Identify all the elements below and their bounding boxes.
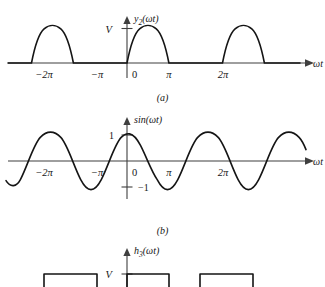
x-tick-label-zero-a: 0: [132, 69, 137, 80]
y-tick-label-V-a: V: [106, 24, 114, 35]
caption-a: (a): [0, 92, 325, 103]
chart-panel-b: 1 −1 sin(ωt) −2π −π 0 π 2π ωt: [0, 105, 325, 215]
x-tick-label-2pi-b: 2π: [218, 167, 229, 178]
y-tick-label-negone-b: −1: [138, 182, 149, 193]
x-axis-name-b: ωt: [313, 156, 323, 167]
x-tick-label-pi-a: π: [166, 69, 172, 80]
y-tick-label-V-c: V: [106, 269, 114, 280]
waveform-curve-c-2: [127, 274, 169, 287]
chart-panel-a: V y2(ωt) −2π −π 0 π 2π ωt: [0, 0, 325, 92]
x-tick-label-neg2pi-b: −2π: [35, 167, 53, 178]
chart-panel-c: V h3(ωt): [0, 243, 325, 287]
chart-a-svg: V y2(ωt) −2π −π 0 π 2π ωt: [0, 0, 325, 92]
waveform-curve-c-3: [200, 274, 253, 287]
y-axis-arrow-b: [123, 117, 130, 125]
x-tick-label-negpi-b: −π: [91, 167, 104, 178]
x-tick-label-zero-b: 0: [132, 167, 137, 178]
y-tick-label-one-b: 1: [109, 130, 114, 141]
figure-page: V y2(ωt) −2π −π 0 π 2π ωt (a): [0, 0, 325, 287]
caption-b: (b): [0, 225, 325, 236]
x-tick-label-pi-b: π: [166, 167, 172, 178]
chart-c-svg: V h3(ωt): [0, 243, 325, 287]
x-axis-name-a: ωt: [313, 58, 323, 69]
y-axis-arrow-c: [123, 248, 130, 256]
x-tick-label-2pi-a: 2π: [218, 69, 229, 80]
y-axis-name-b: sin(ωt): [134, 114, 163, 126]
waveform-curve-c: [44, 274, 97, 287]
y-axis-arrow-a: [123, 16, 130, 24]
chart-b-svg: 1 −1 sin(ωt) −2π −π 0 π 2π ωt: [0, 105, 325, 215]
x-tick-label-neg2pi-a: −2π: [35, 69, 53, 80]
x-tick-label-negpi-a: −π: [91, 69, 104, 80]
waveform-curve-a: [8, 25, 300, 63]
y-axis-name-c: h3(ωt): [134, 245, 160, 259]
